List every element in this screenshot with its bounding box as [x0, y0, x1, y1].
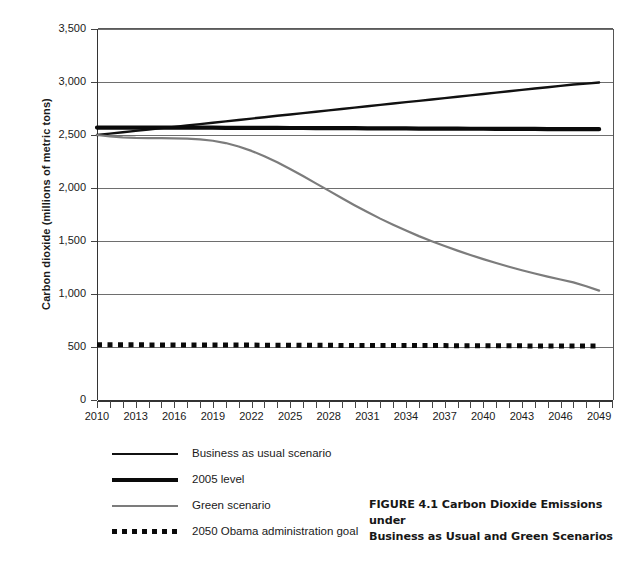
y-axis-tick-label: 2,500: [36, 129, 86, 140]
x-axis-tick-label: 2010: [77, 410, 117, 422]
x-axis-tick-mark: [290, 401, 291, 408]
x-axis-tick-mark: [522, 401, 523, 408]
y-axis-title: Carbon dioxide (millions of metric tons): [40, 54, 52, 354]
plot-bottom-border: [98, 400, 613, 402]
legend-swatch: [112, 453, 178, 455]
y-axis-tick-label: 0: [36, 394, 86, 405]
x-axis-tick-mark: [200, 401, 201, 408]
x-axis-tick-mark: [535, 401, 536, 408]
x-axis-tick-label: 2025: [270, 410, 310, 422]
x-axis-tick-mark: [599, 401, 600, 408]
x-axis-tick-mark: [342, 401, 343, 408]
figure-caption: FIGURE 4.1 Carbon Dioxide Emissions unde…: [369, 497, 631, 545]
series-line: [97, 345, 599, 346]
x-axis-tick-mark: [252, 401, 253, 408]
x-axis-tick-mark: [161, 401, 162, 408]
x-axis-tick-mark: [509, 401, 510, 408]
x-axis-tick-mark: [136, 401, 137, 408]
legend-label: Green scenario: [192, 498, 271, 512]
x-axis-tick-mark: [432, 401, 433, 408]
legend-swatch: [112, 529, 178, 534]
x-axis-tick-mark: [110, 401, 111, 408]
x-axis-tick-mark: [470, 401, 471, 408]
x-axis-tick-mark: [367, 401, 368, 408]
y-axis-tick-label: 3,500: [36, 23, 86, 34]
caption-line-1: FIGURE 4.1 Carbon Dioxide Emissions unde…: [369, 497, 631, 529]
x-axis-tick-mark: [548, 401, 549, 408]
y-axis-tick-label: 3,000: [36, 76, 86, 87]
y-axis-tick-label: 1,000: [36, 288, 86, 299]
x-axis-tick-mark: [355, 401, 356, 408]
x-axis-tick-mark: [316, 401, 317, 408]
legend-item: Business as usual scenario: [112, 443, 432, 469]
x-axis-tick-mark: [149, 401, 150, 408]
x-axis-tick-mark: [239, 401, 240, 408]
x-axis-tick-label: 2034: [386, 410, 426, 422]
legend-label: Business as usual scenario: [192, 446, 331, 460]
y-axis-tick-label: 2,000: [36, 182, 86, 193]
x-axis-tick-mark: [187, 401, 188, 408]
legend-swatch: [112, 505, 178, 507]
x-axis-tick-mark: [445, 401, 446, 408]
x-axis-tick-label: 2049: [579, 410, 619, 422]
x-axis-tick-mark: [123, 401, 124, 408]
x-axis-tick-mark: [303, 401, 304, 408]
x-axis-tick-label: 2031: [347, 410, 387, 422]
series-plot: [97, 29, 612, 400]
series-line: [97, 135, 599, 291]
x-axis-tick-mark: [174, 401, 175, 408]
x-axis-tick-mark: [496, 401, 497, 408]
x-axis-tick-mark: [97, 401, 98, 408]
x-axis-tick-label: 2028: [309, 410, 349, 422]
figure-4-1: Carbon dioxide (millions of metric tons)…: [0, 0, 644, 564]
x-axis-tick-label: 2019: [193, 410, 233, 422]
legend-label: 2005 level: [192, 472, 244, 486]
x-axis-tick-label: 2016: [154, 410, 194, 422]
x-axis-tick-mark: [213, 401, 214, 408]
x-axis-tick-mark: [329, 401, 330, 408]
x-axis-tick-label: 2043: [502, 410, 542, 422]
x-axis-tick-mark: [226, 401, 227, 408]
x-axis-tick-mark: [277, 401, 278, 408]
x-axis-tick-mark: [612, 401, 613, 408]
x-axis-tick-mark: [561, 401, 562, 408]
x-axis-tick-mark: [406, 401, 407, 408]
caption-line-2: Business as Usual and Green Scenarios: [369, 529, 631, 545]
legend-swatch: [112, 478, 178, 482]
series-line: [97, 128, 599, 130]
y-axis-tick-label: 500: [36, 341, 86, 352]
x-axis-tick-mark: [483, 401, 484, 408]
y-axis-tick-label: 1,500: [36, 235, 86, 246]
x-axis-tick-label: 2040: [463, 410, 503, 422]
x-axis-tick-label: 2013: [116, 410, 156, 422]
x-axis-tick-label: 2022: [232, 410, 272, 422]
x-axis-tick-mark: [573, 401, 574, 408]
x-axis-tick-label: 2046: [541, 410, 581, 422]
x-axis-tick-mark: [380, 401, 381, 408]
legend-item: 2005 level: [112, 469, 432, 495]
x-axis-tick-label: 2037: [425, 410, 465, 422]
x-axis-tick-mark: [419, 401, 420, 408]
x-axis-tick-mark: [586, 401, 587, 408]
x-axis-tick-mark: [264, 401, 265, 408]
legend-label: 2050 Obama administration goal: [192, 524, 358, 538]
x-axis-tick-mark: [393, 401, 394, 408]
x-axis-tick-mark: [458, 401, 459, 408]
